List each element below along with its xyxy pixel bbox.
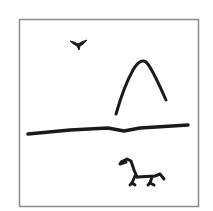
square-frame [20, 20, 199, 207]
pictogram-figure [0, 0, 213, 211]
